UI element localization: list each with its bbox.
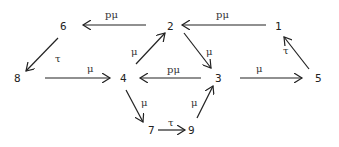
node-4: 4 bbox=[120, 72, 127, 85]
node-8: 8 bbox=[14, 72, 21, 85]
edge-label-9-3: μ bbox=[191, 97, 198, 108]
edge-label-4-2: μ bbox=[131, 46, 138, 57]
node-1: 1 bbox=[275, 20, 282, 33]
edge-label-1-2: pμ bbox=[216, 9, 229, 20]
node-9: 9 bbox=[188, 124, 195, 137]
edge-label-8-4: μ bbox=[87, 63, 94, 74]
node-6: 6 bbox=[60, 20, 67, 33]
node-3: 3 bbox=[215, 72, 222, 85]
edge-label-6-8: τ bbox=[55, 53, 61, 64]
edge-6-to-8 bbox=[26, 38, 58, 71]
state-diagram: 1 2 3 4 5 6 7 8 9 pμ pμ τ μ μ μ pμ μ τ μ… bbox=[0, 0, 339, 147]
edge-label-5-1: τ bbox=[283, 45, 289, 56]
edge-label-7-9: τ bbox=[168, 117, 174, 128]
edge-label-3-5: μ bbox=[256, 63, 263, 74]
node-2: 2 bbox=[167, 20, 174, 33]
edge-label-2-3: μ bbox=[206, 46, 213, 57]
edge-label-2-6: pμ bbox=[105, 9, 118, 20]
edge-9-to-3 bbox=[197, 86, 213, 118]
edge-label-4-7: μ bbox=[141, 97, 148, 108]
node-5: 5 bbox=[315, 72, 322, 85]
edge-label-3-4: pμ bbox=[167, 64, 180, 75]
node-7: 7 bbox=[148, 124, 155, 137]
edge-4-to-2 bbox=[136, 33, 165, 64]
